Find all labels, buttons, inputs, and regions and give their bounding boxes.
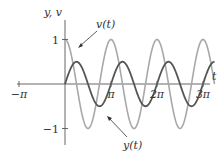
y-axis-label: y, v [43,6,63,19]
x-tick-label: 2π [149,88,165,101]
x-tick-label: π [106,88,115,101]
x-axis-label: t [212,70,217,83]
annotation-v-label: v(t) [96,18,115,31]
chart: −ππ2π3π1−1 y, v t v(t) y(t) [0,0,221,153]
y-tick-label: 1 [52,34,59,47]
x-tick-label: −π [11,88,28,101]
y-tick-label: −1 [43,123,59,136]
annotation-y-label: y(t) [122,139,142,152]
annotation-v-arrow [80,31,97,46]
annotation-y-arrow [109,118,127,137]
x-tick-label: 3π [196,88,211,101]
